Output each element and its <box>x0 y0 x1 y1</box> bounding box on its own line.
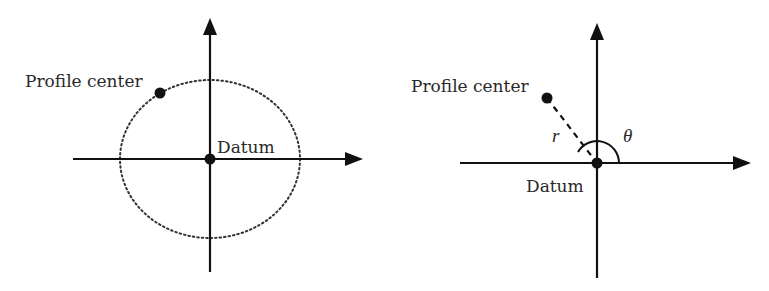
datum-label: Datum <box>526 176 584 196</box>
left-panel: Profile center Datum <box>25 18 363 272</box>
datum-label: Datum <box>217 137 275 157</box>
radius-label: r <box>552 125 560 146</box>
x-axis-arrow-icon <box>733 156 751 170</box>
angle-label: θ <box>623 125 632 146</box>
profile-center-point <box>155 88 166 99</box>
profile-center-point <box>542 93 553 104</box>
right-panel: Profile center Datum r θ <box>411 23 751 278</box>
y-axis-arrow-icon <box>203 18 217 35</box>
datum-point <box>592 158 603 169</box>
diagram-canvas: Profile center Datum Profile center Datu… <box>0 0 769 291</box>
profile-center-label: Profile center <box>411 76 529 96</box>
profile-center-label: Profile center <box>25 71 143 91</box>
x-axis-arrow-icon <box>345 152 363 166</box>
datum-point <box>205 154 216 165</box>
y-axis-arrow-icon <box>590 23 604 40</box>
